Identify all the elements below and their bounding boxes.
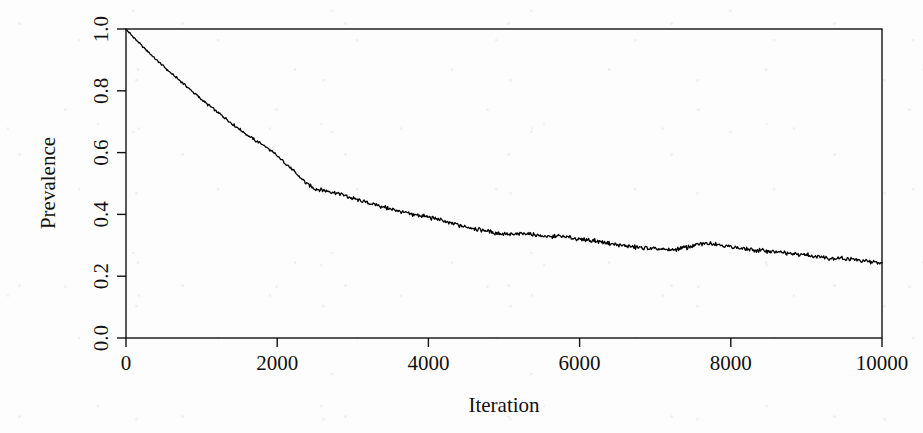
chart-page: 0.00.20.40.60.81.0 020004000600080001000… — [0, 0, 923, 433]
y-axis-title: Prevalence — [36, 137, 60, 229]
y-tick-label: 0.8 — [89, 78, 113, 104]
x-tick-label: 6000 — [559, 351, 601, 375]
x-tick-label: 4000 — [407, 351, 449, 375]
x-tick-label: 2000 — [256, 351, 298, 375]
prevalence-trace-plot: 0.00.20.40.60.81.0 020004000600080001000… — [0, 0, 923, 433]
y-tick-label: 0.6 — [89, 139, 113, 165]
x-axis-tick-labels: 0200040006000800010000 — [121, 351, 909, 375]
prevalence-line-series — [126, 29, 882, 264]
plot-frame-box — [126, 29, 882, 338]
x-tick-label: 0 — [121, 351, 132, 375]
y-tick-label: 0.2 — [89, 263, 113, 289]
x-axis-title: Iteration — [468, 393, 540, 417]
y-tick-label: 0.0 — [89, 325, 113, 351]
x-tick-label: 8000 — [710, 351, 752, 375]
y-axis-tick-labels: 0.00.20.40.60.81.0 — [89, 16, 113, 351]
x-axis-ticks — [126, 338, 882, 347]
y-tick-label: 1.0 — [89, 16, 113, 42]
y-axis-ticks — [117, 29, 126, 338]
x-tick-label: 10000 — [856, 351, 909, 375]
y-tick-label: 0.4 — [89, 201, 113, 228]
